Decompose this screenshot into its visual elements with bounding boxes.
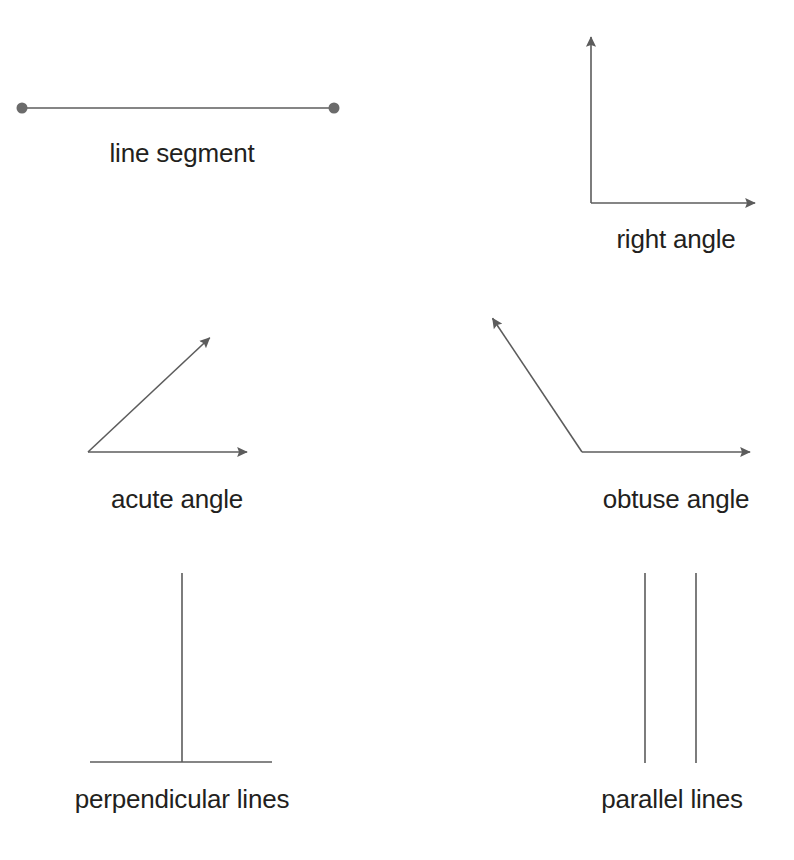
- geometry-diagram-page: line segment right angle acute angle obt…: [0, 0, 794, 860]
- label-parallel-lines: parallel lines: [601, 786, 743, 812]
- line-segment-endpoint-right: [329, 103, 340, 114]
- label-perpendicular-lines: perpendicular lines: [75, 786, 289, 812]
- label-right-angle: right angle: [616, 226, 735, 252]
- line-segment-endpoint-left: [17, 103, 28, 114]
- figure-acute-angle: [88, 338, 247, 452]
- acute-angle-diagonal-ray: [88, 338, 210, 452]
- label-acute-angle: acute angle: [111, 486, 243, 512]
- figure-obtuse-angle: [493, 318, 751, 452]
- label-obtuse-angle: obtuse angle: [603, 486, 750, 512]
- figure-line-segment: [17, 103, 340, 114]
- figure-perpendicular-lines: [90, 573, 272, 762]
- obtuse-angle-diagonal-ray: [493, 318, 582, 452]
- figure-parallel-lines: [645, 573, 696, 763]
- label-line-segment: line segment: [109, 140, 254, 166]
- figure-right-angle: [591, 37, 755, 203]
- geometry-figures-canvas: [0, 0, 794, 860]
